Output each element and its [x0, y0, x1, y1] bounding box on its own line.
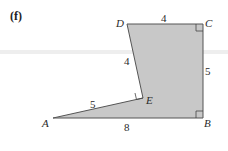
side-length-ab: 8: [124, 121, 130, 133]
vertex-label-e: E: [145, 94, 153, 106]
vertex-label-d: D: [115, 17, 124, 29]
side-length-dc: 4: [161, 12, 167, 24]
vertex-label-b: B: [204, 117, 211, 129]
side-length-cb: 5: [205, 65, 211, 77]
side-length-ae: 5: [90, 98, 96, 110]
side-length-de: 4: [124, 55, 130, 67]
polygon-abcde: [53, 24, 203, 118]
vertex-label-c: C: [205, 17, 213, 29]
figure-canvas: (f) D C B A E 4 5 4 5 8: [0, 0, 228, 151]
part-label: (f): [10, 9, 22, 23]
vertex-label-a: A: [41, 117, 49, 129]
